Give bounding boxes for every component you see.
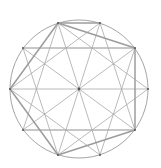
decagon-star-diagram xyxy=(0,0,161,168)
vertex-point-V9 xyxy=(134,47,136,49)
center-point xyxy=(78,88,81,91)
vertex-point-V0 xyxy=(147,88,149,90)
vertex-point-V3 xyxy=(57,154,59,156)
vertex-point-V5 xyxy=(9,88,11,90)
vertex-point-V6 xyxy=(22,47,24,49)
bold-chord-V1-V3 xyxy=(58,130,135,155)
vertex-point-V8 xyxy=(99,22,101,24)
vertex-point-V7 xyxy=(57,22,59,24)
vertex-point-V1 xyxy=(134,129,136,131)
vertex-point-V4 xyxy=(22,129,24,131)
bold-chord-V7-V9 xyxy=(58,23,135,48)
bold-chord-V3-V5 xyxy=(10,89,58,155)
bold-chord-V5-V7 xyxy=(10,23,58,89)
vertex-point-V2 xyxy=(99,154,101,156)
